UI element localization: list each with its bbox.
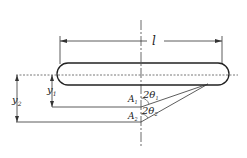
bar-body bbox=[57, 63, 229, 85]
y2-arrow-bottom bbox=[15, 116, 19, 122]
arrowhead-right bbox=[215, 39, 222, 43]
y2-label: y2 bbox=[11, 94, 22, 107]
bar-geometry-diagram: l y1 y2 A1 A2 2θ1 2θ2 bbox=[0, 0, 247, 158]
point-a1-label: A1 bbox=[127, 94, 138, 105]
y1-arrow-bottom bbox=[50, 101, 54, 107]
angle-theta2-label: 2θ2 bbox=[141, 105, 158, 117]
length-label: l bbox=[152, 34, 156, 48]
y2-arrow-top bbox=[15, 75, 19, 81]
y1-label: y1 bbox=[46, 84, 56, 97]
arrowhead-left bbox=[60, 39, 67, 43]
angle-theta1-label: 2θ1 bbox=[142, 89, 159, 101]
point-a2-label: A2 bbox=[127, 111, 138, 122]
y1-arrow-top bbox=[50, 75, 54, 81]
